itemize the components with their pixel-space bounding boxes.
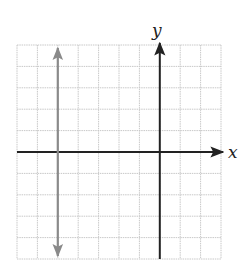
coordinate-plane: x y [0, 0, 246, 278]
x-axis-label: x [228, 142, 238, 162]
y-axis-label: y [151, 20, 162, 40]
